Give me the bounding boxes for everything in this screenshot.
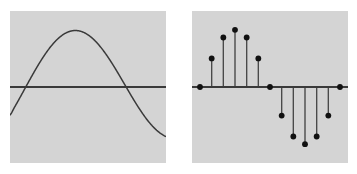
stem-dot: [267, 84, 273, 90]
stem-dot: [255, 56, 261, 62]
figure-root: [0, 0, 357, 174]
stem-dot: [302, 141, 308, 147]
panel-continuous-sine: [10, 11, 166, 163]
stem-dot: [244, 35, 250, 41]
stem-dot: [290, 134, 296, 140]
stem-dot: [232, 27, 238, 33]
stem-dot: [220, 35, 226, 41]
stem-dot: [209, 56, 215, 62]
continuous-sine-chart: [10, 11, 166, 163]
stem-dot: [197, 84, 203, 90]
stem-dot: [325, 113, 331, 119]
stem-dot: [337, 84, 343, 90]
stem-dot: [314, 134, 320, 140]
stem-dot: [279, 113, 285, 119]
panel-discrete-sine: [192, 11, 348, 163]
discrete-sine-stem-chart: [192, 11, 348, 163]
